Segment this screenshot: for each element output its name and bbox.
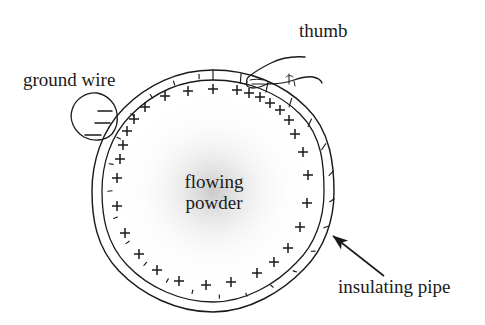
thumb-nail-crease <box>250 79 263 80</box>
label-flowing-powder: flowing powder <box>168 171 260 214</box>
label-flowing-powder-line2: powder <box>168 192 260 213</box>
insulating-pipe-callout-arrow <box>333 236 384 276</box>
thumb-illustration <box>246 57 322 88</box>
ground-wire-minus-marks <box>85 111 112 135</box>
thumb-knuckle-mark-3 <box>294 81 295 86</box>
label-insulating-pipe: insulating pipe <box>338 276 450 297</box>
figure-canvas: thumb ground wire insulating pipe flowin… <box>0 0 485 325</box>
label-flowing-powder-line1: flowing <box>168 171 260 192</box>
label-ground-wire: ground wire <box>23 69 115 90</box>
label-thumb: thumb <box>299 20 348 41</box>
ground-wire-loop <box>71 93 117 140</box>
ground-wire-circle <box>71 93 117 140</box>
thumb-upper-contour <box>247 57 305 82</box>
